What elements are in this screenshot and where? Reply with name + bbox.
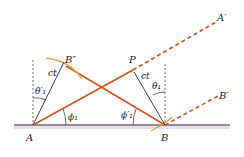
label-B-double-prime: B″ [64,54,76,65]
label-B-prime: B′ [218,90,229,101]
diagram-canvas: A B P B″ A′ B′ ct ct θ′₁ θ₁ ϕ₁ ϕ′₁ [0,0,244,157]
angle-arc-theta1 [153,92,165,95]
ray-B-to-B-prime [165,96,218,125]
ray-B-double-prime-to-B [66,66,165,125]
label-A-prime: A′ [216,12,227,23]
label-A: A [25,132,33,143]
label-phi1: ϕ₁ [68,112,78,122]
ray-P-to-A-prime [133,22,216,70]
angle-arc-phi1-prime [133,109,136,125]
label-ct-right: ct [141,71,150,81]
label-ct-left: ct [48,68,57,78]
label-phi1-prime: ϕ′₁ [121,110,133,120]
label-theta1: θ₁ [152,81,161,91]
angle-arc-phi1 [63,109,66,125]
reflection-diagram: A B P B″ A′ B′ ct ct θ′₁ θ₁ ϕ₁ ϕ′₁ [0,0,244,157]
label-P: P [128,54,136,65]
label-theta1-prime: θ′₁ [35,86,46,96]
label-B: B [160,132,168,143]
angle-arc-theta1-prime [33,98,46,100]
